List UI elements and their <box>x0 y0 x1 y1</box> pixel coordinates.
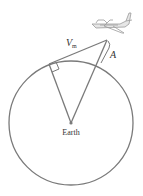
earth-center-dot <box>69 121 72 124</box>
radius-to-tangent <box>49 64 71 123</box>
altitude-label: A <box>109 49 117 60</box>
airplane-icon <box>92 13 132 33</box>
earth-label: Earth <box>62 128 79 137</box>
tangent-label: Vm <box>66 37 77 49</box>
earth-horizon-diagram: Vm A Earth <box>0 0 143 196</box>
